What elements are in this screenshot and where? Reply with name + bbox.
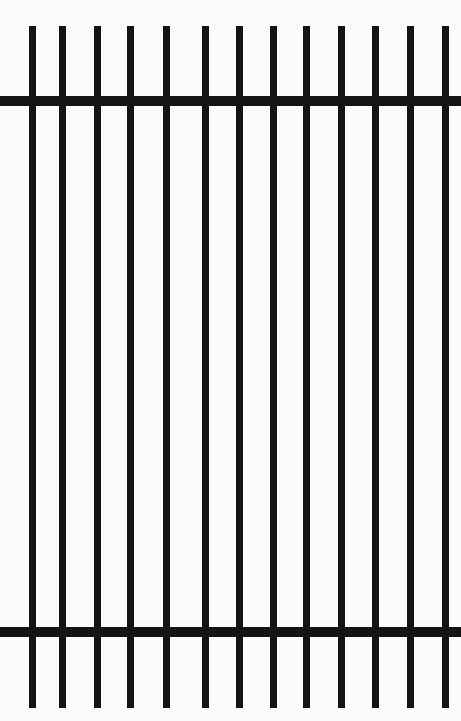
fence-picket bbox=[29, 26, 36, 708]
fence-picket bbox=[163, 26, 170, 708]
top-rail bbox=[0, 96, 461, 106]
fence-drawing bbox=[0, 0, 461, 721]
fence-picket bbox=[202, 26, 209, 708]
fence-picket bbox=[407, 26, 414, 708]
fence-picket bbox=[59, 26, 66, 708]
fence-picket bbox=[236, 26, 243, 708]
fence-picket bbox=[303, 26, 310, 708]
fence-picket bbox=[270, 26, 277, 708]
bottom-rail bbox=[0, 627, 461, 637]
fence-picket bbox=[442, 26, 449, 708]
fence-picket bbox=[372, 26, 379, 708]
fence-picket bbox=[94, 26, 101, 708]
fence-picket bbox=[338, 26, 345, 708]
fence-picket bbox=[127, 26, 134, 708]
